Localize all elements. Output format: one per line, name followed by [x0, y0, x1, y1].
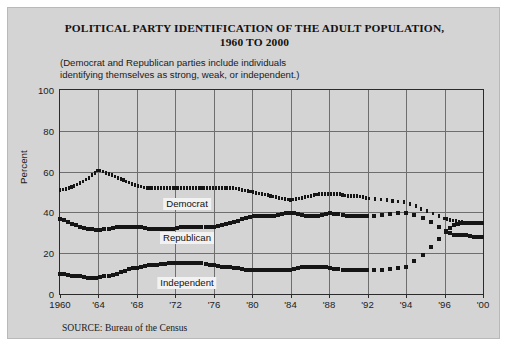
chart-subtitle-line1: (Democrat and Republican parties include…	[60, 57, 390, 69]
data-point-independent	[372, 268, 376, 272]
data-point-democrat	[391, 199, 393, 203]
data-point-democrat	[275, 195, 277, 199]
x-axis-tickmark	[406, 294, 407, 298]
data-point-democrat	[281, 197, 283, 201]
y-axis-tick: 20	[43, 248, 54, 259]
data-point-democrat	[365, 196, 367, 200]
data-point-democrat	[362, 195, 364, 199]
data-point-democrat	[65, 187, 67, 191]
data-point-democrat	[249, 190, 251, 194]
data-point-independent	[448, 226, 452, 230]
data-point-republican	[380, 213, 384, 217]
data-point-democrat	[449, 218, 451, 222]
data-point-democrat	[70, 185, 72, 189]
data-point-democrat	[226, 186, 228, 190]
x-gridline	[368, 90, 369, 294]
y-axis-tick: 0	[49, 289, 54, 300]
x-axis-tick: '72	[169, 299, 182, 310]
data-point-democrat	[140, 185, 142, 189]
data-point-democrat	[244, 189, 246, 193]
x-axis-tick: '68	[131, 299, 144, 310]
data-point-independent	[421, 253, 425, 257]
data-point-democrat	[295, 197, 297, 201]
data-point-democrat	[307, 195, 309, 199]
data-point-republican	[412, 213, 416, 217]
data-point-democrat	[76, 183, 78, 187]
data-point-democrat	[117, 176, 119, 180]
data-point-democrat	[94, 171, 96, 175]
data-point-republican	[372, 214, 376, 218]
y-gridline	[60, 253, 483, 254]
data-point-democrat	[186, 186, 188, 190]
y-axis-tick: 100	[38, 85, 54, 96]
x-gridline	[406, 90, 407, 294]
data-point-democrat	[125, 180, 127, 184]
data-point-democrat	[114, 175, 116, 179]
data-point-democrat	[172, 186, 174, 190]
data-point-democrat	[278, 196, 280, 200]
data-point-democrat	[267, 193, 269, 197]
data-point-independent	[480, 221, 484, 225]
data-point-democrat	[292, 198, 294, 202]
data-point-republican	[365, 214, 369, 218]
data-point-democrat	[310, 194, 312, 198]
data-point-democrat	[420, 207, 422, 211]
x-axis-tickmark	[137, 294, 138, 298]
data-point-independent	[412, 259, 416, 263]
data-point-democrat	[105, 171, 107, 175]
plot-area: 0204060801001960'64'68'72'76'80'84'88'92…	[59, 89, 484, 295]
chart-title-line2: 1960 TO 2000	[8, 35, 501, 49]
y-axis-tick: 60	[43, 166, 54, 177]
data-point-democrat	[289, 198, 291, 202]
data-point-democrat	[88, 176, 90, 180]
data-point-democrat	[151, 186, 153, 190]
x-axis-tickmark	[368, 294, 369, 298]
data-point-independent	[437, 237, 441, 241]
source-note: SOURCE: Bureau of the Census	[62, 322, 187, 333]
data-point-democrat	[206, 186, 208, 190]
chart-subtitle-line2: identifying themselves as strong, weak, …	[60, 69, 390, 81]
data-point-democrat	[157, 186, 159, 190]
y-gridline	[60, 172, 483, 173]
data-point-democrat	[336, 192, 338, 196]
data-point-republican	[429, 220, 433, 224]
x-axis-tick: '88	[323, 299, 336, 310]
data-point-democrat	[313, 193, 315, 197]
data-point-republican	[396, 211, 400, 215]
data-point-democrat	[96, 169, 98, 173]
data-point-republican	[404, 211, 408, 215]
data-point-democrat	[356, 194, 358, 198]
data-point-democrat	[252, 190, 254, 194]
data-point-democrat	[229, 186, 231, 190]
data-point-democrat	[380, 198, 382, 202]
data-point-democrat	[415, 204, 417, 208]
data-point-democrat	[134, 183, 136, 187]
data-point-democrat	[386, 198, 388, 202]
data-point-democrat	[224, 186, 226, 190]
data-point-democrat	[212, 186, 214, 190]
x-axis-tickmark	[214, 294, 215, 298]
x-axis-tick: '64	[92, 299, 105, 310]
data-point-democrat	[122, 178, 124, 182]
data-point-democrat	[298, 197, 300, 201]
data-point-democrat	[163, 186, 165, 190]
data-point-republican	[437, 225, 441, 229]
data-point-democrat	[321, 192, 323, 196]
data-point-democrat	[397, 200, 399, 204]
data-point-independent	[365, 268, 369, 272]
data-point-democrat	[160, 186, 162, 190]
data-point-republican	[480, 235, 484, 239]
data-point-democrat	[189, 186, 191, 190]
data-point-democrat	[79, 181, 81, 185]
series-label-independent: Independent	[157, 277, 216, 289]
x-axis-tick: '94	[400, 299, 413, 310]
data-point-democrat	[269, 194, 271, 198]
data-point-democrat	[192, 186, 194, 190]
x-axis-tickmark	[252, 294, 253, 298]
y-gridline	[60, 131, 483, 132]
x-axis-tickmark	[329, 294, 330, 298]
data-point-democrat	[169, 186, 171, 190]
data-point-independent	[396, 266, 400, 270]
data-point-democrat	[432, 212, 434, 216]
x-axis-tick: 1960	[49, 299, 70, 310]
